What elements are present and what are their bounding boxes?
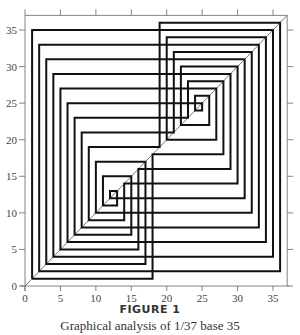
figure-title: FIGURE 1 (0, 303, 300, 316)
y-tick-label: 0 (12, 280, 18, 292)
y-tick-label: 30 (6, 61, 18, 73)
y-tick-label: 35 (6, 24, 18, 36)
y-tick-label: 10 (6, 207, 18, 219)
y-tick-label: 20 (6, 134, 18, 146)
figure-caption: Graphical analysis of 1/37 base 35 (0, 318, 300, 334)
diagonal-line (25, 15, 287, 286)
cobweb-chart: 0510152025303505101520253035 (0, 0, 300, 335)
y-tick-label: 25 (6, 97, 18, 109)
y-tick-label: 15 (6, 170, 18, 182)
y-tick-label: 5 (12, 243, 18, 255)
